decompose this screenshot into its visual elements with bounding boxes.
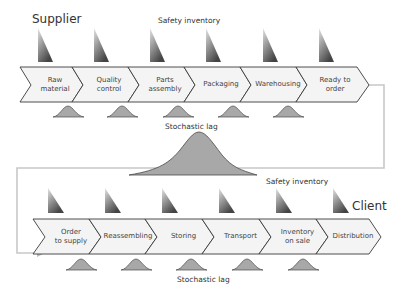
step-quality-control: Quality control [83, 67, 135, 102]
top-stochastic-lag-bells [53, 106, 304, 117]
step-reassembling: Reassembling [100, 219, 156, 254]
stochastic-lag-label-bottom: Stochastic lag [177, 275, 230, 284]
step-parts-assembly: Parts assembly [139, 67, 191, 102]
bottom-safety-inventory-wedges [48, 188, 349, 213]
client-label: Client [352, 199, 387, 213]
step-packaging: Packaging [195, 67, 247, 102]
step-transport: Transport [214, 219, 267, 254]
step-ready-to-order: Ready to order [307, 67, 363, 102]
step-distribution: Distribution [327, 219, 379, 254]
bottom-stochastic-lag-bells [66, 259, 319, 270]
step-storing: Storing [157, 219, 210, 254]
step-warehousing: Warehousing [249, 67, 307, 102]
stochastic-lag-label-top: Stochastic lag [165, 122, 218, 131]
step-raw-material: Raw material [31, 67, 79, 102]
safety-inventory-label-middle: Safety inventory [266, 177, 328, 186]
top-safety-inventory-wedges [38, 28, 334, 62]
step-order-to-supply: Order to supply [45, 219, 97, 254]
step-inventory-on-sale: Inventory on sale [271, 219, 324, 254]
safety-inventory-label-top: Safety inventory [158, 16, 220, 25]
supplier-label: Supplier [32, 12, 81, 26]
